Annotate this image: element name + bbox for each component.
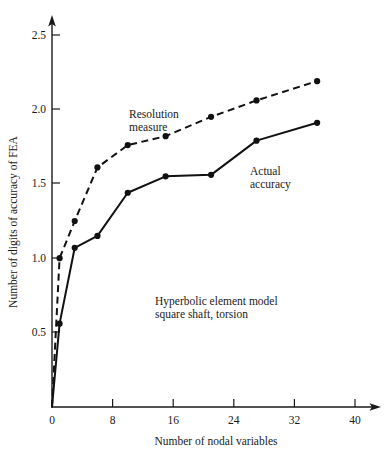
actual-accuracy-label-line1: Actual [250, 165, 281, 177]
data-point-marker [56, 255, 62, 261]
axes-group [48, 15, 381, 411]
annotation-model-description: Hyperbolic element model square shaft, t… [155, 295, 278, 321]
resolution-measure-line [52, 81, 317, 407]
x-tick-label-16: 16 [167, 414, 179, 426]
y-tick-label-0-5: 0.5 [32, 326, 47, 338]
y-tick-label-1-5: 1.5 [32, 177, 47, 189]
data-point-marker [314, 78, 320, 84]
actual-accuracy-label-line2: accuracy [250, 178, 291, 191]
data-point-marker [94, 233, 100, 239]
data-point-marker [94, 164, 100, 170]
data-point-marker [125, 142, 131, 148]
x-tick-label-0: 0 [49, 414, 55, 426]
data-point-marker [72, 245, 78, 251]
resolution-measure-label-line1: Resolution [129, 108, 179, 120]
annotation-resolution-measure: Resolution measure [129, 108, 179, 133]
data-point-marker [72, 218, 78, 224]
y-tick-label-2-5: 2.5 [32, 29, 47, 41]
data-point-marker [163, 133, 169, 139]
data-point-marker [125, 190, 131, 196]
series-resolution-measure [52, 78, 320, 407]
data-point-marker [208, 114, 214, 120]
data-point-marker [253, 97, 259, 103]
x-tick-label-24: 24 [228, 414, 240, 426]
y-axis-title: Number of digits of accuracy of FEA [7, 135, 20, 308]
x-axis-ticks: 0 8 16 24 32 40 [49, 399, 361, 426]
data-point-marker [163, 173, 169, 179]
x-tick-label-40: 40 [349, 414, 361, 426]
data-point-marker [208, 172, 214, 178]
data-point-marker [314, 120, 320, 126]
model-description-line2: square shaft, torsion [155, 308, 248, 321]
x-axis-title: Number of nodal variables [155, 435, 278, 447]
x-tick-label-32: 32 [289, 414, 301, 426]
annotation-actual-accuracy: Actual accuracy [250, 165, 291, 191]
series-actual-accuracy [52, 120, 320, 407]
x-tick-label-8: 8 [110, 414, 116, 426]
chart-figure: 2.5 2.0 1.5 1.0 0.5 0 8 16 24 32 40 Numb… [0, 0, 391, 467]
line-chart-canvas: 2.5 2.0 1.5 1.0 0.5 0 8 16 24 32 40 Numb… [0, 0, 391, 467]
resolution-measure-label-line2: measure [129, 121, 167, 133]
model-description-line1: Hyperbolic element model [155, 295, 278, 308]
y-tick-label-2-0: 2.0 [32, 103, 47, 115]
y-axis-ticks: 2.5 2.0 1.5 1.0 0.5 [32, 29, 60, 338]
y-tick-label-1-0: 1.0 [32, 252, 47, 264]
data-point-marker [56, 321, 62, 327]
data-point-marker [253, 138, 259, 144]
